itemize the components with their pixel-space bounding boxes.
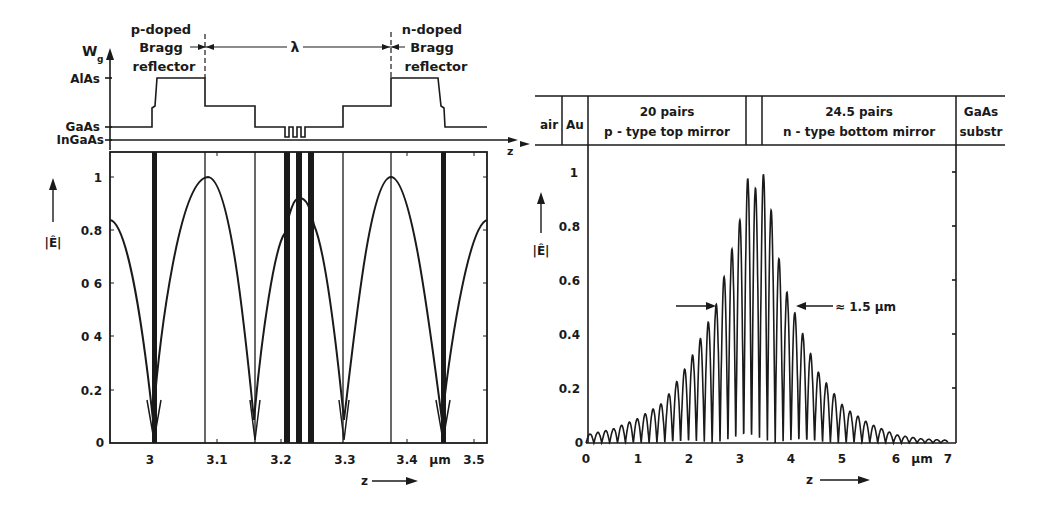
left-x-arrow-icon bbox=[372, 477, 418, 485]
right-ytick-0.8: 0.8 bbox=[559, 220, 580, 234]
figure-canvas: W g AlAs GaAs InGaAs p-doped Bragg refle… bbox=[0, 0, 1040, 512]
right-y-axis-label: |Ê| bbox=[533, 243, 550, 258]
n-doped-label-3: reflector bbox=[405, 59, 469, 74]
right-xtick-1: 1 bbox=[634, 452, 642, 466]
n-doped-label-2: Bragg bbox=[410, 40, 454, 55]
right-plot-frame bbox=[586, 145, 956, 443]
header-air: air bbox=[540, 118, 558, 132]
header-bottom-mirror-1: 24.5 pairs bbox=[825, 105, 893, 119]
right-header-table bbox=[520, 96, 1005, 147]
left-ytick-0.4: 0 4 bbox=[81, 330, 102, 344]
lambda-label: λ bbox=[291, 39, 300, 55]
right-xtick-6: 6 bbox=[892, 452, 900, 466]
left-y-arrow-icon bbox=[49, 178, 57, 222]
header-substrate-1: GaAs bbox=[964, 105, 998, 119]
right-xtick-7: 7 bbox=[944, 452, 952, 466]
header-bottom-mirror-2: n - type bottom mirror bbox=[783, 125, 935, 139]
right-ytick-0.2: 0.2 bbox=[559, 382, 580, 396]
header-top-mirror-1: 20 pairs bbox=[640, 105, 695, 119]
header-substrate-2: substr bbox=[959, 125, 1002, 139]
left-ytick-0.2: 0.2 bbox=[81, 384, 102, 398]
wg-axis-label: W bbox=[82, 43, 97, 59]
left-xtick-3.3: 3.3 bbox=[334, 453, 355, 467]
level-label-ingaas: InGaAs bbox=[57, 133, 104, 147]
level-label-alas: AlAs bbox=[70, 72, 100, 86]
p-doped-label-3: reflector bbox=[133, 59, 197, 74]
right-x-unit: μm bbox=[911, 452, 932, 466]
n-doped-label-1: n-doped bbox=[402, 22, 462, 37]
left-xtick-3.4: 3.4 bbox=[396, 453, 417, 467]
level-label-gaas: GaAs bbox=[66, 120, 100, 134]
left-x-unit: μm bbox=[429, 453, 450, 467]
left-ytick-1: 1 bbox=[94, 171, 102, 185]
right-ytick-0.4: 0.4 bbox=[559, 328, 580, 342]
right-y-arrow-icon bbox=[537, 192, 545, 233]
right-xtick-3: 3 bbox=[736, 452, 744, 466]
right-xtick-2: 2 bbox=[685, 452, 693, 466]
left-ytick-0.8: 0.8 bbox=[81, 224, 102, 238]
bandgap-z-label: z bbox=[507, 145, 513, 158]
right-xtick-0: 0 bbox=[582, 452, 590, 466]
right-xtick-5: 5 bbox=[838, 452, 846, 466]
left-xtick-3.1: 3.1 bbox=[206, 453, 227, 467]
wg-axis-subscript: g bbox=[97, 54, 103, 64]
left-xtick-3.2: 3.2 bbox=[270, 453, 291, 467]
right-ytick-0.6: 0.6 bbox=[559, 274, 580, 288]
header-top-mirror-2: p - type top mirror bbox=[604, 125, 730, 139]
right-x-axis-label: z bbox=[806, 473, 813, 487]
left-y-axis-label: |Ê| bbox=[45, 235, 62, 250]
left-ytick-0: 0 bbox=[96, 436, 104, 450]
p-doped-label-2: Bragg bbox=[139, 40, 183, 55]
left-xtick-3: 3 bbox=[146, 453, 154, 467]
left-xtick-3.5: 3.5 bbox=[463, 453, 484, 467]
width-annotation-label: ≈ 1.5 μm bbox=[835, 300, 896, 314]
header-au: Au bbox=[566, 118, 584, 132]
right-ytick-1: 1 bbox=[570, 166, 578, 180]
left-x-axis-label: z bbox=[361, 474, 368, 488]
right-xtick-4: 4 bbox=[787, 452, 795, 466]
width-annotation bbox=[676, 302, 833, 310]
p-doped-label-1: p-doped bbox=[131, 22, 191, 37]
right-ytick-0: 0 bbox=[575, 436, 583, 450]
left-ytick-0.6: 0 6 bbox=[81, 277, 102, 291]
right-x-arrow-icon bbox=[820, 476, 870, 484]
